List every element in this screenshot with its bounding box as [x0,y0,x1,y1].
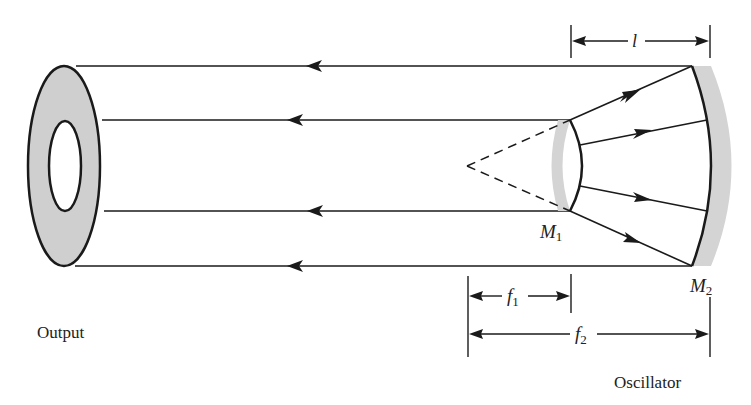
dimension-f2 [469,297,710,357]
label-m2: M2 [689,275,712,298]
label-f1: f1 [507,285,519,309]
output-annulus [28,66,100,266]
label-output: Output [37,323,85,342]
rightward-arrow-icons [620,89,652,243]
diverging-rays [570,66,707,266]
output-beam-lines [75,66,692,266]
unstable-resonator-diagram: l f1 f2 M1 M2 Output Oscillator [0,0,751,405]
dimension-f1 [468,274,571,357]
leftward-arrow-icons [287,60,323,272]
label-m1: M1 [539,221,562,244]
label-f2: f2 [575,323,587,347]
mirror-m2 [692,66,732,266]
label-l: l [632,31,637,51]
label-oscillator: Oscillator [614,373,681,392]
dimension-l [571,25,710,58]
mirror-m1 [552,120,583,211]
